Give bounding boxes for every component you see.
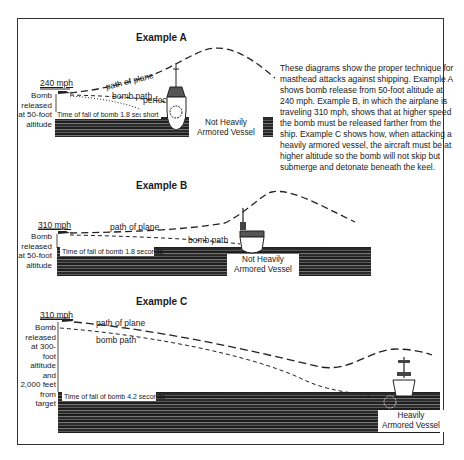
- diagram-paths: [0, 0, 464, 460]
- example-a-graphics: [40, 48, 275, 130]
- airplane-icon: [58, 91, 70, 94]
- ship-icon: [167, 63, 186, 130]
- example-b-graphics: [38, 191, 355, 253]
- airplane-icon: [62, 319, 74, 322]
- ship-icon: [384, 357, 415, 408]
- example-c-graphics: [40, 318, 432, 408]
- ship-icon: [240, 208, 264, 253]
- airplane-icon: [58, 231, 70, 234]
